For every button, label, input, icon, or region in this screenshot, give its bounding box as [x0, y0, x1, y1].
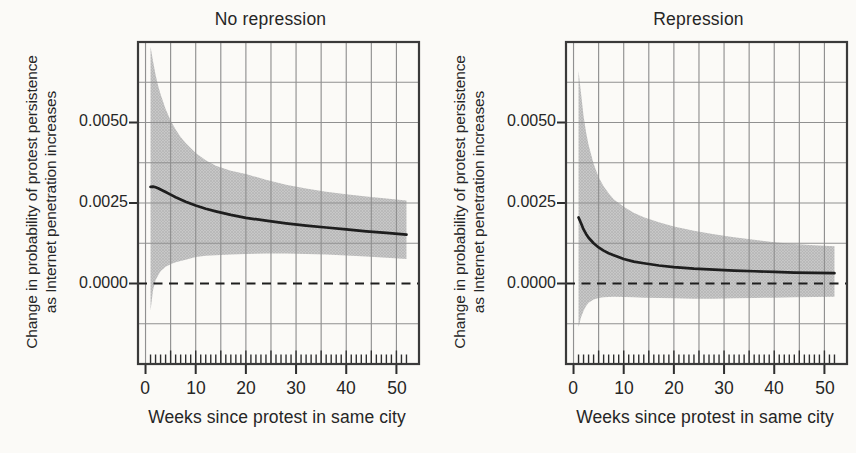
x-tick-label: 20: [649, 378, 699, 400]
x-tick-label: 30: [271, 378, 321, 400]
y-axis-ticks: [557, 123, 566, 284]
x-tick-label: 50: [800, 378, 850, 400]
x-axis-label: Weeks since protest in same city: [533, 407, 856, 428]
y-axis-label-line1: Change in probability of protest persist…: [451, 55, 468, 349]
x-tick-label: 10: [171, 378, 221, 400]
x-tick-label: 50: [372, 378, 422, 400]
confidence-band: [151, 47, 407, 311]
rug-ticks: [579, 351, 835, 364]
x-tick-label: 30: [699, 378, 749, 400]
x-tick-label: 0: [548, 378, 598, 400]
panel-title: Repression: [558, 9, 839, 30]
panel-title: No repression: [130, 9, 411, 30]
y-axis-ticks: [129, 123, 138, 284]
x-axis-ticks: [146, 364, 397, 374]
x-tick-label: 40: [749, 378, 799, 400]
x-tick-label: 20: [221, 378, 271, 400]
two-panel-figure: No repression Change in probability of p…: [0, 0, 856, 453]
gridlines: [566, 42, 847, 364]
x-tick-label: 10: [599, 378, 649, 400]
panel-no-repression: No repression Change in probability of p…: [0, 0, 428, 453]
panel-repression: Repression Change in probability of prot…: [428, 0, 856, 453]
x-axis-label: Weeks since protest in same city: [105, 407, 449, 428]
x-axis-ticks: [574, 364, 825, 374]
y-axis-label-line1: Change in probability of protest persist…: [23, 55, 40, 349]
y-tick-label: 0.0000: [50, 274, 128, 294]
x-tick-label: 40: [321, 378, 371, 400]
confidence-band: [579, 71, 835, 327]
rug-ticks: [151, 351, 407, 364]
y-tick-label: 0.0025: [478, 193, 556, 213]
gridlines: [138, 42, 419, 364]
x-tick-label: 0: [120, 378, 170, 400]
y-tick-label: 0.0000: [478, 274, 556, 294]
y-tick-label: 0.0050: [478, 112, 556, 132]
y-tick-label: 0.0050: [50, 112, 128, 132]
y-tick-label: 0.0025: [50, 193, 128, 213]
